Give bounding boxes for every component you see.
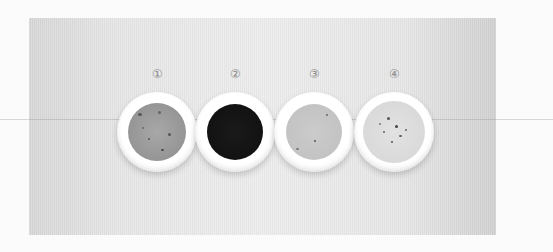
- bowl-2: [195, 92, 275, 172]
- bowl-1: [117, 92, 197, 172]
- bowl-label-3: ③: [304, 67, 324, 81]
- bowl-4: [354, 92, 434, 172]
- bowl-3: [274, 92, 354, 172]
- bowl-label-1: ①: [147, 67, 167, 81]
- bowl-4-liquid: [363, 101, 425, 163]
- bowl-label-4: ④: [384, 67, 404, 81]
- bowl-3-liquid: [286, 104, 342, 160]
- bowl-label-2: ②: [225, 67, 245, 81]
- bowl-1-liquid: [128, 103, 186, 161]
- bowl-2-liquid: [207, 104, 263, 160]
